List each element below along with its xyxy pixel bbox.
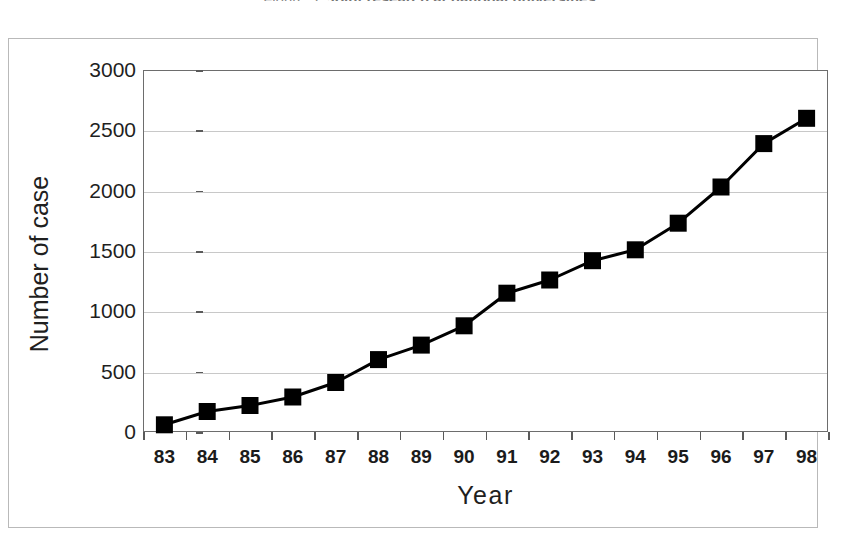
gridline bbox=[144, 312, 827, 313]
gridline bbox=[144, 252, 827, 253]
y-axis-tick-mark bbox=[196, 130, 203, 132]
x-axis-tick-label: 85 bbox=[228, 446, 272, 468]
y-axis-tick-label: 500 bbox=[70, 361, 136, 382]
y-axis-tick-label: 1500 bbox=[70, 240, 136, 261]
gridline bbox=[144, 131, 827, 132]
y-axis-tick-mark bbox=[196, 70, 203, 72]
y-axis-tick-mark bbox=[196, 372, 203, 374]
x-axis-tick-mark bbox=[400, 432, 402, 440]
x-axis-tick-label: 87 bbox=[314, 446, 358, 468]
y-axis-tick-labels: 050010001500200025003000 bbox=[60, 0, 136, 550]
gridline bbox=[144, 373, 827, 374]
x-axis-tick-mark bbox=[486, 432, 488, 440]
x-axis-tick-label: 92 bbox=[528, 446, 572, 468]
x-axis-tick-mark bbox=[229, 432, 231, 440]
y-axis-tick-mark bbox=[196, 311, 203, 313]
x-axis-tick-label: 88 bbox=[356, 446, 400, 468]
plot-frame bbox=[143, 70, 828, 432]
x-axis-tick-label: 93 bbox=[571, 446, 615, 468]
y-axis-title: Number of case bbox=[26, 154, 52, 374]
y-axis-tick-label: 2000 bbox=[70, 180, 136, 201]
y-axis-tick-mark bbox=[196, 251, 203, 253]
x-axis-tick-mark bbox=[271, 432, 273, 440]
gridline bbox=[144, 192, 827, 193]
y-axis-tick-mark bbox=[196, 432, 203, 434]
x-axis-tick-label: 95 bbox=[656, 446, 700, 468]
x-axis-tick-label: 89 bbox=[399, 446, 443, 468]
x-axis-tick-mark bbox=[785, 432, 787, 440]
x-axis-tick-mark bbox=[443, 432, 445, 440]
x-axis-tick-mark bbox=[828, 432, 830, 440]
x-axis-tick-label: 96 bbox=[699, 446, 743, 468]
x-axis-title: Year bbox=[143, 481, 828, 509]
x-axis-tick-mark bbox=[614, 432, 616, 440]
x-axis-tick-label: 84 bbox=[185, 446, 229, 468]
x-axis-tick-mark bbox=[742, 432, 744, 440]
x-axis-tick-label: 86 bbox=[271, 446, 315, 468]
x-axis-tick-mark bbox=[357, 432, 359, 440]
x-axis-tick-mark bbox=[657, 432, 659, 440]
x-axis-tick-label: 97 bbox=[742, 446, 786, 468]
y-axis-tick-label: 2500 bbox=[70, 119, 136, 140]
x-axis-tick-label: 90 bbox=[442, 446, 486, 468]
x-axis-tick-mark bbox=[143, 432, 145, 440]
x-axis-tick-mark bbox=[700, 432, 702, 440]
x-axis-tick-mark bbox=[186, 432, 188, 440]
y-axis-tick-label: 3000 bbox=[70, 59, 136, 80]
x-axis-tick-label: 98 bbox=[785, 446, 829, 468]
line-chart: 050010001500200025003000 Number of case … bbox=[0, 0, 859, 550]
x-axis-tick-mark bbox=[528, 432, 530, 440]
y-axis-tick-mark bbox=[196, 191, 203, 193]
x-axis-tick-mark bbox=[314, 432, 316, 440]
x-axis-tick-mark bbox=[571, 432, 573, 440]
x-axis-tick-label: 91 bbox=[485, 446, 529, 468]
x-axis-tick-label: 83 bbox=[142, 446, 186, 468]
y-axis-tick-label: 0 bbox=[70, 421, 136, 442]
y-axis-tick-label: 1000 bbox=[70, 300, 136, 321]
x-axis-tick-label: 94 bbox=[613, 446, 657, 468]
